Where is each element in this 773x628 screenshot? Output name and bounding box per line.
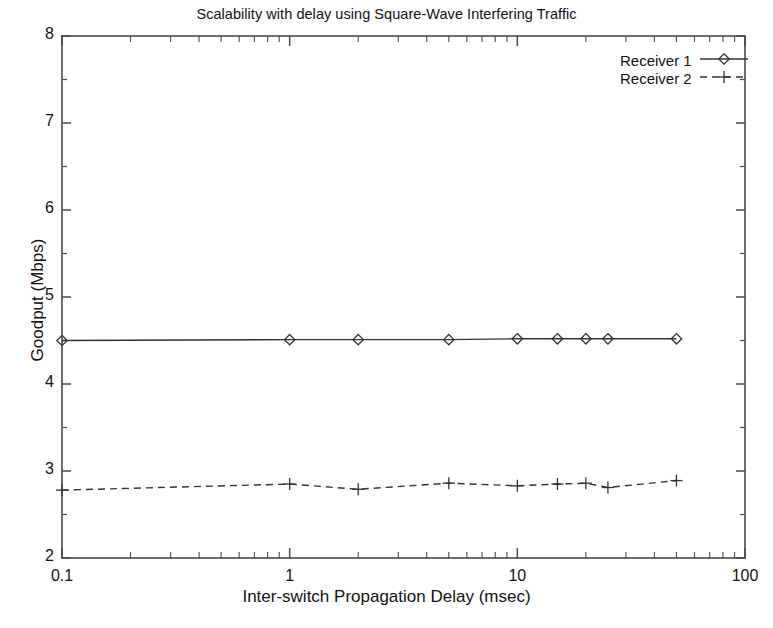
x-tick-label: 1 [260, 567, 320, 585]
legend-entry-receiver-1: Receiver 1 [620, 52, 692, 69]
chart-figure: Scalability with delay using Square-Wave… [0, 0, 773, 628]
x-tick-label: 100 [715, 567, 773, 585]
y-tick-label: 8 [28, 25, 54, 43]
legend-sample-2 [700, 71, 748, 83]
y-tick-label: 2 [28, 547, 54, 565]
x-tick-label: 0.1 [32, 567, 92, 585]
y-tick-label: 5 [28, 286, 54, 304]
chart-plot-area [0, 0, 773, 628]
series-2 [56, 475, 682, 497]
series-1 [57, 334, 682, 346]
x-tick-label: 10 [487, 567, 547, 585]
y-tick-label: 7 [28, 112, 54, 130]
y-tick-label: 4 [28, 373, 54, 391]
x-axis-label: Inter-switch Propagation Delay (msec) [0, 587, 773, 607]
legend-entry-receiver-2: Receiver 2 [620, 70, 692, 87]
y-tick-label: 3 [28, 460, 54, 478]
y-tick-label: 6 [28, 199, 54, 217]
legend-sample-1 [700, 54, 748, 64]
